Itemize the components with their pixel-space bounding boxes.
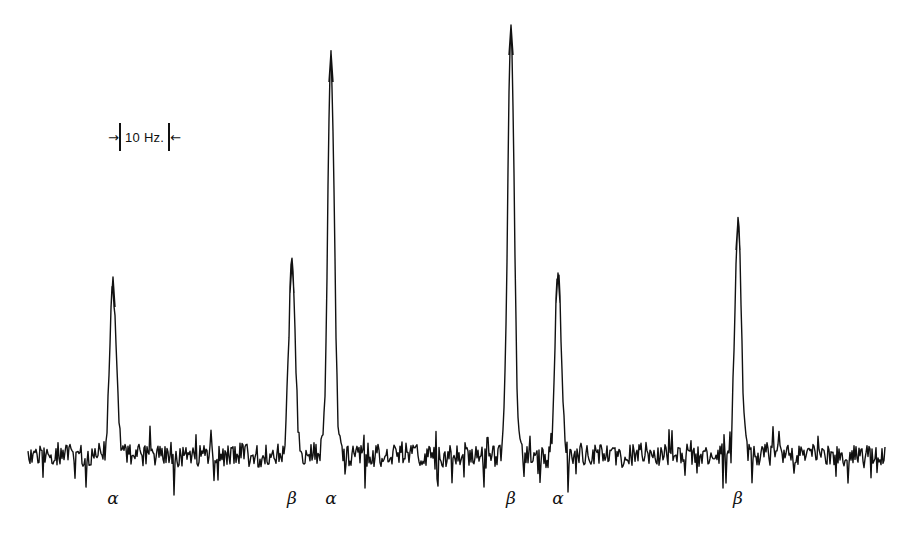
right-arrow-icon: →: [108, 131, 119, 144]
peak-label: α: [107, 488, 118, 508]
peak-label: α: [325, 488, 336, 508]
peak-label: β: [733, 488, 743, 508]
left-arrow-icon: ←: [170, 131, 181, 144]
peak-label: β: [287, 488, 297, 508]
spectrum-trace: [0, 0, 913, 538]
peak-label: α: [552, 488, 563, 508]
scale-label: 10 Hz.: [121, 130, 168, 145]
peak-label: β: [506, 488, 516, 508]
spectrum-line: [28, 25, 885, 495]
scale-bar: → 10 Hz. ←: [108, 122, 181, 152]
